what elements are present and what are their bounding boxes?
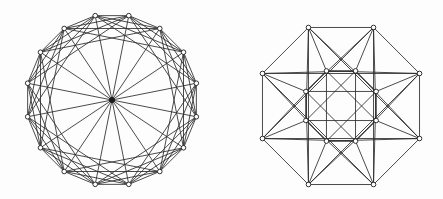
hub-vertex: [109, 97, 114, 102]
graph-vertex: [324, 69, 329, 74]
graph-edge: [308, 27, 326, 70]
graph-edge: [40, 16, 128, 53]
graph-vertex: [353, 69, 358, 74]
figure-canvas: [0, 0, 443, 199]
graph-edge: [160, 148, 184, 172]
graph-vertex: [260, 136, 265, 141]
graph-edge: [160, 28, 197, 116]
graph-vertex: [194, 114, 199, 119]
graph-edge: [262, 27, 308, 73]
graph-vertex: [62, 26, 67, 31]
graph-edge: [308, 141, 326, 184]
graph-vertex: [353, 139, 358, 144]
graph-edge: [374, 139, 420, 185]
graph-vertex: [25, 114, 30, 119]
graph-edge: [308, 73, 419, 184]
graph-edge: [376, 121, 419, 139]
graph-edge: [28, 83, 65, 171]
graph-edge: [326, 91, 376, 141]
graph-vertex: [306, 182, 311, 187]
left-graph-vertices: [25, 13, 198, 186]
graph-edge: [326, 71, 376, 121]
graph-vertex: [62, 169, 67, 174]
graph-vertex: [417, 71, 422, 76]
graph-vertex: [181, 50, 186, 55]
graph-edge: [129, 16, 197, 84]
graph-edge: [374, 27, 420, 73]
graph-vertex: [304, 89, 309, 94]
graph-figure: [0, 0, 443, 199]
graph-edge: [95, 16, 183, 53]
graph-vertex: [38, 50, 43, 55]
graph-edge: [40, 148, 64, 172]
graph-vertex: [304, 118, 309, 123]
graph-edge: [262, 121, 305, 139]
graph-vertex: [25, 81, 30, 86]
graph-vertex: [306, 25, 311, 30]
graph-vertex: [374, 89, 379, 94]
graph-edge: [129, 117, 197, 185]
graph-edge: [308, 27, 419, 138]
graph-vertex: [371, 25, 376, 30]
graph-vertex: [194, 81, 199, 86]
graph-edge: [28, 28, 65, 116]
graph-vertex: [126, 13, 131, 18]
graph-edge: [28, 16, 96, 84]
graph-vertex: [374, 118, 379, 123]
graph-vertex: [38, 145, 43, 150]
graph-vertex: [417, 136, 422, 141]
graph-edge: [262, 139, 308, 185]
graph-edge: [40, 148, 128, 185]
graph-vertex: [93, 182, 98, 187]
graph-vertex: [157, 169, 162, 174]
graph-vertex: [181, 145, 186, 150]
graph-edge: [356, 141, 374, 184]
graph-edge: [262, 73, 305, 91]
graph-edge: [306, 71, 356, 121]
graph-vertex: [371, 182, 376, 187]
graph-vertex: [126, 182, 131, 187]
graph-vertex: [324, 139, 329, 144]
graph-edge: [28, 117, 96, 185]
graph-vertex: [93, 13, 98, 18]
graph-edge: [356, 27, 374, 70]
graph-edge: [160, 83, 197, 171]
graph-vertex: [157, 26, 162, 31]
graph-edge: [376, 73, 419, 91]
right-graph-edges: [262, 27, 419, 184]
graph-edge: [306, 91, 356, 141]
right-graph-vertices: [260, 25, 422, 187]
graph-edge: [95, 148, 183, 185]
graph-edge: [160, 28, 184, 52]
graph-edge: [262, 27, 373, 138]
graph-edge: [262, 73, 373, 184]
graph-edge: [40, 28, 64, 52]
graph-vertex: [260, 71, 265, 76]
